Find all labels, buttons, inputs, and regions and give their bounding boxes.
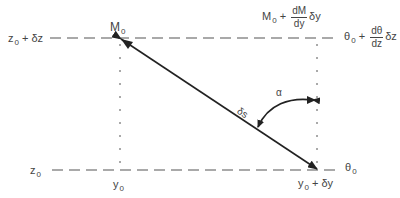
subscript: 0	[305, 183, 309, 192]
subscript: 0	[351, 36, 355, 45]
label-y0: y0	[113, 179, 124, 190]
fraction-dm-dy: dMdy	[291, 6, 307, 29]
plus: +	[356, 30, 369, 42]
subscript: 0	[15, 38, 19, 47]
fraction-dtheta-dz: dθdz	[370, 26, 383, 49]
label-z0-plus-dz: z0 + δz	[8, 33, 43, 44]
label-alpha: α	[276, 88, 282, 98]
plus-dz: + δz	[19, 32, 43, 44]
alpha-arc	[258, 99, 313, 127]
subscript: 0	[120, 184, 124, 193]
numerator: dM	[291, 6, 307, 18]
theta-symbol: θ	[344, 30, 350, 42]
plus-dy: + δy	[309, 177, 333, 189]
label-theta0-plus-dtheta-dz-dz: θ0 + dθdzδz	[344, 26, 397, 49]
subscript: 0	[121, 27, 125, 36]
y-symbol: y	[113, 178, 119, 190]
label-y0-plus-dy: y0 + δy	[298, 178, 333, 189]
subscript: 0	[352, 167, 356, 176]
subscript: 0	[37, 170, 41, 179]
delta-z: δz	[385, 30, 397, 42]
denominator: dy	[291, 18, 307, 29]
z-symbol: z	[8, 32, 14, 44]
label-m0-plus-dm-dy-dy: M0 + dMdyδy	[262, 6, 321, 29]
label-m0: M0	[110, 21, 125, 33]
z-symbol: z	[30, 164, 36, 176]
theta-symbol: θ	[345, 161, 351, 173]
denominator: dz	[370, 38, 383, 49]
m-symbol: M	[262, 10, 271, 22]
delta-y: δy	[309, 10, 321, 22]
subscript: 0	[272, 16, 276, 25]
plus: +	[277, 10, 290, 22]
m-symbol: M	[110, 20, 120, 34]
label-z0: z0	[30, 165, 41, 176]
ds-arrow	[121, 39, 317, 169]
alpha-arc-head-right	[307, 96, 316, 104]
numerator: dθ	[370, 26, 383, 38]
diagram-canvas	[0, 0, 400, 198]
y-symbol: y	[298, 177, 304, 189]
label-theta0: θ0	[345, 162, 357, 173]
ds-arrow-head-start	[121, 39, 133, 49]
